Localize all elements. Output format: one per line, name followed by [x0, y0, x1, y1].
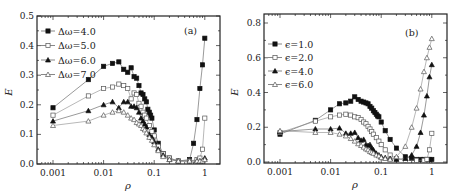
y-tick-label: 0.0: [247, 157, 262, 167]
legend-label: ϵ=1.0: [285, 39, 313, 50]
data-series: [278, 62, 435, 161]
y-axis-label: E: [3, 88, 14, 97]
legend: Δω=4.0Δω=5.0Δω=6.0Δω=7.0: [41, 26, 96, 81]
x-axis-label: ρ: [351, 179, 358, 190]
x-tick-label: 1: [429, 167, 435, 177]
x-tick-label: 0.01: [94, 168, 114, 178]
y-axis-label: E: [229, 88, 240, 97]
chart-canvas: 0.0010.010.110.00.10.20.30.40.5ρE(a)Δω=4…: [0, 0, 452, 194]
legend-item: Δω=4.0: [41, 26, 96, 37]
y-tick-label: 0.4: [20, 41, 35, 51]
y-tick-label: 0.5: [20, 11, 35, 21]
legend-label: Δω=7.0: [58, 69, 96, 80]
x-tick-label: 0.1: [147, 168, 161, 178]
y-tick-label: 0.3: [20, 70, 35, 80]
legend-item: Δω=7.0: [41, 69, 96, 80]
panel-tag: (b): [405, 27, 419, 38]
y-tick-label: 0.8: [247, 18, 262, 28]
panel-b: 0.0010.010.110.00.20.40.60.8ρE(b)ϵ=1.0ϵ=…: [229, 14, 447, 190]
data-series: [51, 99, 208, 163]
legend-label: Δω=4.0: [58, 26, 96, 37]
y-tick-label: 0.6: [247, 53, 262, 63]
panel-tag: (a): [184, 25, 197, 36]
x-tick-label: 0.01: [321, 167, 341, 177]
x-axis-label: ρ: [124, 180, 131, 191]
x-tick-label: 1: [202, 168, 208, 178]
figure: 0.0010.010.110.00.10.20.30.40.5ρE(a)Δω=4…: [0, 0, 452, 194]
data-series: [51, 108, 208, 163]
y-tick-label: 0.1: [20, 129, 34, 139]
legend-label: Δω=6.0: [58, 55, 96, 66]
legend-item: ϵ=6.0: [268, 79, 313, 90]
x-tick-label: 0.001: [267, 167, 293, 177]
legend: ϵ=1.0ϵ=2.0ϵ=4.0ϵ=6.0: [268, 39, 313, 91]
x-tick-label: 0.1: [374, 167, 388, 177]
y-tick-label: 0.0: [20, 159, 35, 169]
y-tick-label: 0.4: [247, 88, 262, 98]
legend-label: Δω=5.0: [58, 40, 96, 51]
panel-a: 0.0010.010.110.00.10.20.30.40.5ρE(a)Δω=4…: [3, 11, 220, 191]
legend-item: ϵ=4.0: [268, 66, 313, 77]
y-tick-label: 0.2: [247, 122, 261, 132]
y-tick-label: 0.2: [20, 100, 34, 110]
legend-label: ϵ=2.0: [285, 52, 313, 63]
legend-item: Δω=6.0: [41, 55, 96, 66]
legend-item: ϵ=2.0: [268, 52, 313, 63]
legend-label: ϵ=6.0: [285, 79, 313, 90]
x-tick-label: 0.001: [40, 168, 66, 178]
legend-label: ϵ=4.0: [285, 66, 313, 77]
legend-item: ϵ=1.0: [268, 39, 313, 50]
legend-item: Δω=5.0: [41, 40, 96, 51]
